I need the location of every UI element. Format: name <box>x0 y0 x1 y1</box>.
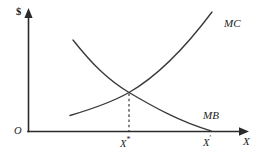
max-quantity-tick-label: X' <box>203 135 211 148</box>
mb-curve-label: MB <box>203 110 219 121</box>
mc-mb-diagram: $ X O MC MB X* X' <box>0 0 258 161</box>
max-quantity-tick-prime: ' <box>209 134 210 143</box>
origin-label: O <box>14 126 22 137</box>
y-axis-label: $ <box>16 7 21 18</box>
optimum-tick-label: X* <box>120 136 130 149</box>
mc-curve-label: MC <box>224 18 241 29</box>
x-axis-label: X <box>243 136 250 147</box>
optimum-tick-star: * <box>126 135 130 144</box>
mb-curve <box>73 40 211 131</box>
y-axis-arrowhead <box>24 8 32 18</box>
